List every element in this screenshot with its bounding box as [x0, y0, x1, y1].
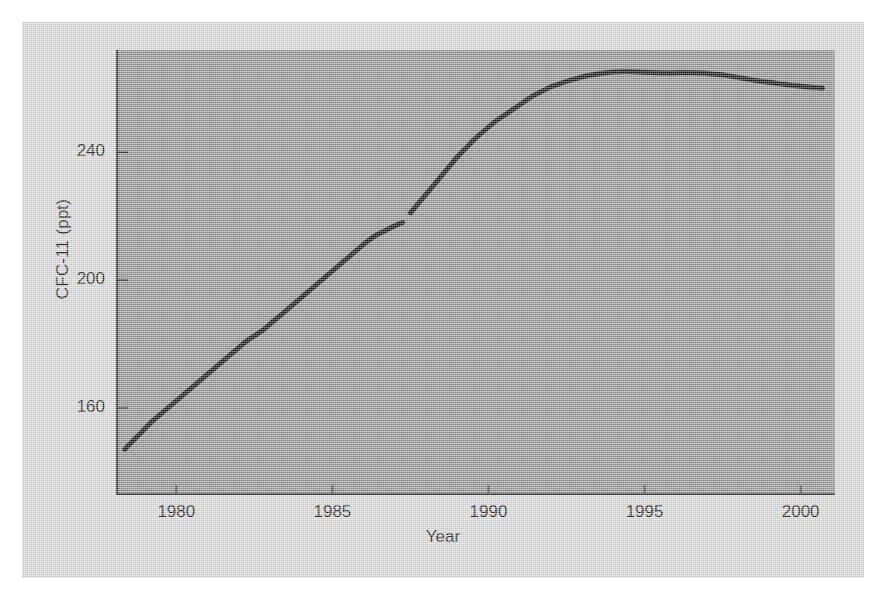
x-tick-label: 1980 — [136, 502, 216, 522]
x-tick-label: 2000 — [761, 502, 841, 522]
y-tick-label: 160 — [31, 397, 105, 417]
x-tick-label: 1995 — [605, 502, 685, 522]
y-tick-label: 240 — [31, 141, 105, 161]
plot-background — [117, 50, 835, 494]
y-axis-title: CFC-11 (ppt) — [53, 169, 73, 329]
x-tick-label: 1990 — [448, 502, 528, 522]
figure-page: 19801985199019952000160200240 CFC-11 (pp… — [22, 22, 864, 578]
cfc11-time-series-chart: 19801985199019952000160200240 CFC-11 (pp… — [22, 22, 864, 578]
plot-canvas — [22, 22, 864, 578]
x-tick-label: 1985 — [292, 502, 372, 522]
x-axis-title: Year — [22, 527, 864, 547]
